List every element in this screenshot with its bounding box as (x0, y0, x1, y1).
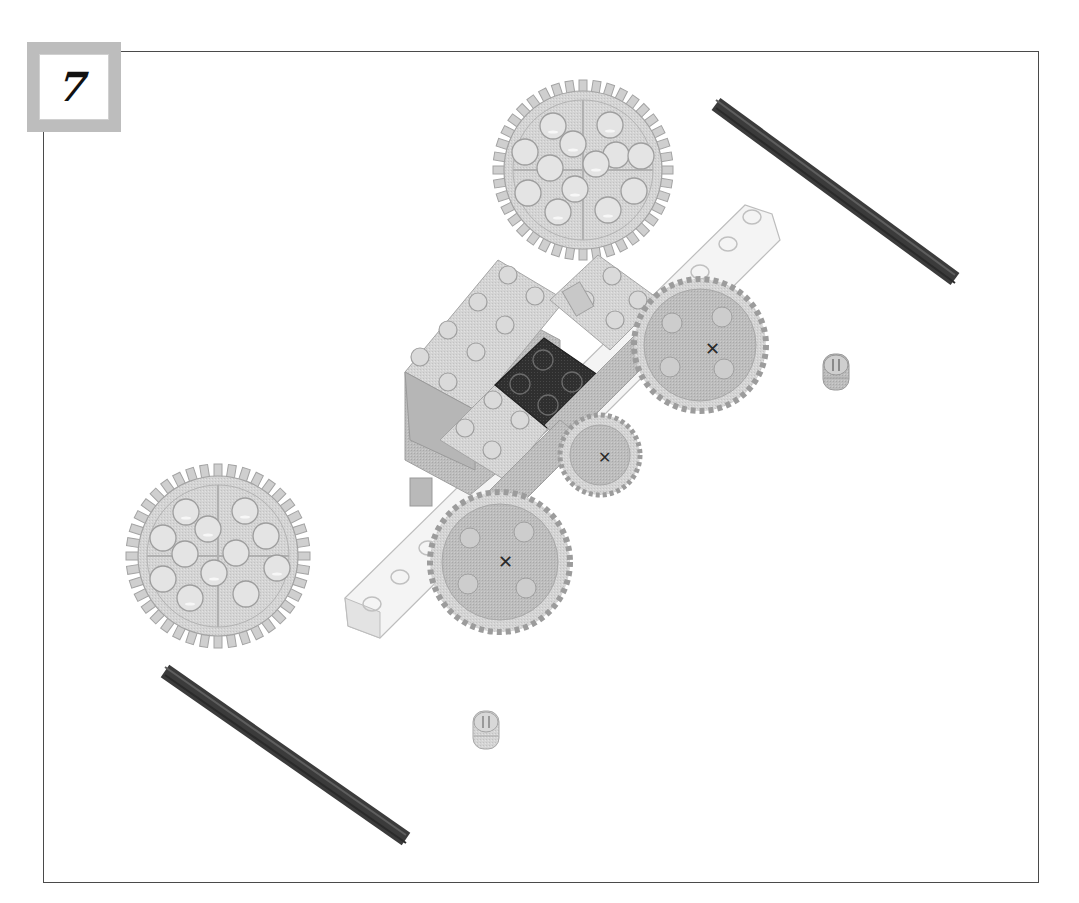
gear-top (493, 80, 673, 260)
svg-text:✕: ✕ (498, 551, 513, 572)
bushing-right (823, 354, 849, 390)
svg-text:✕: ✕ (598, 448, 611, 467)
svg-text:✕: ✕ (705, 338, 720, 359)
gear-assembly-upper: ✕ (634, 279, 766, 411)
gear-assembly-lower: ✕ (430, 492, 570, 632)
gear-train-assembly: ✕ ✕ ✕ (345, 205, 780, 638)
gear-assembly-middle: ✕ (560, 415, 640, 495)
instruction-illustration: ✕ ✕ ✕ (0, 0, 1079, 903)
step-number: 7 (58, 67, 90, 107)
step-badge: 7 (27, 42, 121, 132)
gear-left (126, 464, 310, 648)
bushing-bottom (473, 711, 499, 749)
axle-bottom (165, 667, 406, 843)
